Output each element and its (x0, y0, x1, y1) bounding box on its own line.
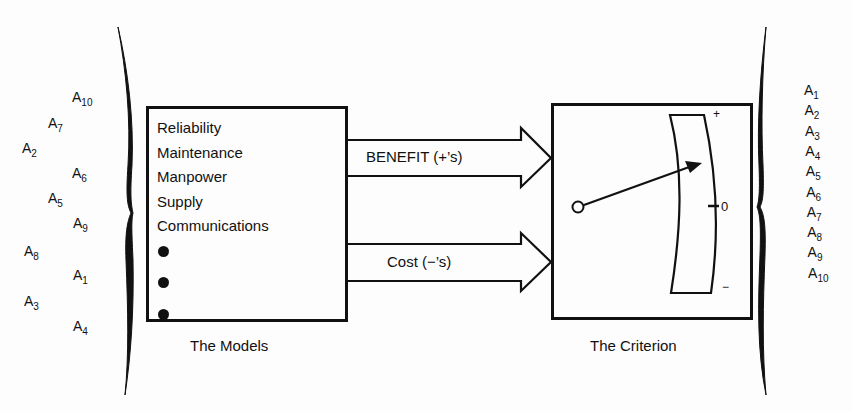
benefit-label: BENEFIT (+’s) (366, 148, 463, 165)
alternative-index: 1 (813, 90, 819, 101)
meter-needle-icon (584, 166, 692, 205)
alternative-index: 4 (815, 151, 821, 162)
alternative-a4: A4 (73, 319, 88, 333)
meter-pivot-icon (573, 202, 584, 213)
alternative-base: A (73, 267, 82, 283)
alternative-index: 8 (816, 232, 822, 243)
ranked-alternative-a6: A6 (806, 185, 821, 199)
ranked-alternative-a1: A1 (804, 83, 819, 97)
alternative-index: 5 (57, 198, 63, 209)
alternative-base: A (806, 163, 815, 179)
ranked-alternative-a8: A8 (807, 225, 822, 239)
alternative-a1: A1 (73, 268, 88, 282)
model-item-manpower: Manpower (157, 165, 269, 190)
alternative-index: 7 (816, 212, 822, 223)
alternative-index: 10 (817, 273, 828, 284)
model-item-maintenance: Maintenance (157, 141, 269, 166)
alternative-a3: A3 (24, 294, 39, 308)
alternative-base: A (73, 318, 82, 334)
alternative-base: A (48, 115, 57, 131)
model-item-communications: Communications (157, 214, 269, 239)
model-item-reliability: Reliability (157, 116, 269, 141)
alternative-a7: A7 (48, 116, 63, 130)
alternative-index: 9 (817, 252, 823, 263)
alternative-base: A (72, 89, 81, 105)
alternative-base: A (805, 143, 814, 159)
alternative-base: A (805, 123, 814, 139)
alternative-index: 8 (33, 251, 39, 262)
ranked-alternative-a7: A7 (807, 205, 822, 219)
meter-minus-label: − (722, 280, 729, 294)
meter-plus-label: + (713, 107, 720, 121)
alternative-base: A (22, 140, 31, 156)
alternative-a10: A10 (72, 90, 92, 104)
ellipsis-dot-icon (158, 277, 169, 288)
cost-label: Cost (−’s) (387, 253, 451, 270)
alternative-base: A (806, 184, 815, 200)
alternative-a6: A6 (72, 166, 87, 180)
alternative-index: 7 (57, 123, 63, 134)
ranked-alternative-a5: A5 (806, 164, 821, 178)
meter-zero-label: 0 (721, 199, 728, 214)
alternative-base: A (73, 215, 82, 231)
alternative-index: 3 (814, 131, 820, 142)
alternative-base: A (808, 265, 817, 281)
meter-needle-arrowhead-icon (685, 161, 702, 173)
alternative-index: 10 (81, 97, 92, 108)
alternative-index: 2 (814, 110, 820, 121)
alternative-base: A (24, 243, 33, 259)
alternative-index: 5 (815, 171, 821, 182)
diagram-canvas: Reliability Maintenance Manpower Supply … (0, 0, 852, 413)
alternative-index: 1 (82, 275, 88, 286)
alternative-index: 4 (82, 326, 88, 337)
ranked-alternative-a4: A4 (805, 144, 820, 158)
models-caption: The Models (190, 337, 268, 354)
alternative-index: 2 (31, 148, 37, 159)
models-list: Reliability Maintenance Manpower Supply … (157, 116, 269, 333)
ranked-alternative-a2: A2 (804, 103, 819, 117)
alternative-index: 9 (82, 223, 88, 234)
left-brace-icon (118, 27, 133, 395)
alternative-base: A (804, 102, 813, 118)
alternative-index: 3 (33, 301, 39, 312)
alternative-base: A (48, 190, 57, 206)
ranked-alternative-a10: A10 (808, 266, 828, 280)
ellipsis-dot-icon (158, 246, 169, 257)
alternative-index: 6 (81, 173, 87, 184)
model-item-supply: Supply (157, 190, 269, 215)
alternative-a5: A5 (48, 191, 63, 205)
alternative-base: A (72, 165, 81, 181)
ellipsis-dot-icon (158, 309, 169, 320)
criterion-caption: The Criterion (590, 337, 677, 354)
alternative-index: 6 (816, 192, 822, 203)
meter-scale-icon (670, 115, 716, 293)
alternative-a8: A8 (24, 244, 39, 258)
alternative-a9: A9 (73, 216, 88, 230)
ranked-alternative-a9: A9 (808, 245, 823, 259)
alternative-a2: A2 (22, 141, 37, 155)
alternative-base: A (808, 244, 817, 260)
ranked-alternative-a3: A3 (805, 124, 820, 138)
alternative-base: A (24, 293, 33, 309)
right-brace-icon (757, 27, 766, 395)
alternative-base: A (807, 204, 816, 220)
alternative-base: A (804, 82, 813, 98)
